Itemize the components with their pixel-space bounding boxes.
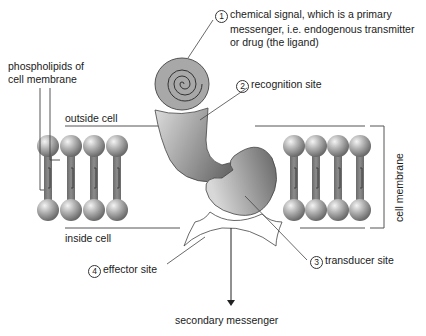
label-inside-cell: inside cell [65,232,111,245]
label-chemical-signal: 1chemical signal, which is a primary mes… [215,8,414,48]
recognition-site-shape [155,108,244,182]
label-transducer-site: 3transducer site [310,254,394,269]
receptor-diagram [0,0,426,336]
label-outside-cell: outside cell [65,112,118,125]
effector-site-shape [184,212,282,246]
transducer-site-shape [206,147,277,215]
label-phospholipids: phospholipids of cell membrane [8,60,84,85]
label-cell-membrane: cell membrane [393,153,405,222]
number-badge-1: 1 [215,10,228,23]
label-secondary-messenger: secondary messenger [175,314,278,327]
label-effector-site: 4effector site [88,263,157,278]
ligand-chemical-signal [155,58,209,110]
number-badge-3: 3 [310,256,323,269]
label-recognition-site: 2recognition site [236,78,322,93]
phospholipids-right [283,135,371,221]
cell-membrane-bracket [370,126,384,228]
number-badge-2: 2 [236,80,249,93]
phospholipids-left [37,135,128,221]
number-badge-4: 4 [88,265,101,278]
